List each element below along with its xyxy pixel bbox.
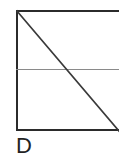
figure-label: D (16, 134, 32, 158)
diagonal-line (17, 11, 119, 131)
figure-panel: D (0, 0, 119, 161)
